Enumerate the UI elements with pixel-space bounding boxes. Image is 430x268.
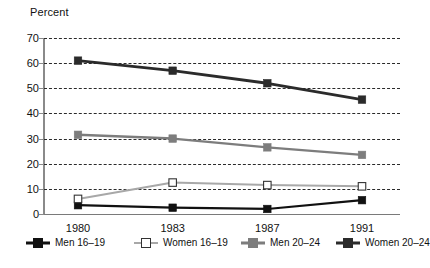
series-men-20-24	[74, 131, 366, 159]
series-line	[78, 135, 362, 155]
plot-area: 010203040506070 1980198319871991	[44, 38, 400, 214]
x-tick-label-1983: 1983	[160, 223, 184, 234]
series-layer	[44, 38, 400, 214]
y-tick-label-60: 60	[27, 58, 39, 69]
y-tick-label-20: 20	[27, 158, 39, 169]
data-point-marker	[74, 195, 82, 203]
y-tick-label-0: 0	[33, 209, 39, 220]
legend-swatch-icon	[241, 237, 265, 249]
y-tick-label-70: 70	[27, 33, 39, 44]
legend-item-men-20-24[interactable]: Men 20–24	[241, 236, 320, 250]
data-point-marker	[169, 204, 177, 212]
chart-legend: Men 16–19Women 16–19Men 20–24Women 20–24	[26, 236, 404, 250]
data-point-marker	[169, 67, 177, 75]
y-tick-label-40: 40	[27, 108, 39, 119]
series-men-16-19	[74, 196, 366, 212]
legend-item-women-16-19[interactable]: Women 16–19	[134, 236, 228, 250]
data-point-marker	[358, 151, 366, 159]
legend-item-men-16-19[interactable]: Men 16–19	[26, 236, 105, 250]
legend-item-label: Women 20–24	[365, 238, 430, 248]
legend-item-women-20-24[interactable]: Women 20–24	[336, 236, 430, 250]
data-point-marker	[169, 135, 177, 143]
data-point-marker	[169, 179, 177, 187]
x-tick-label-1991: 1991	[350, 223, 374, 234]
x-tick-label-1980: 1980	[66, 223, 90, 234]
series-line	[78, 183, 362, 199]
series-women-16-19	[74, 179, 366, 203]
legend-swatch-icon	[134, 237, 158, 249]
data-point-marker	[358, 96, 366, 104]
caption-strip	[0, 258, 410, 268]
legend-swatch-icon	[336, 237, 360, 249]
y-tick-mark-0	[39, 214, 44, 215]
y-axis-title: Percent	[30, 6, 69, 18]
data-point-marker	[74, 57, 82, 65]
series-line	[78, 200, 362, 209]
legend-item-label: Women 16–19	[163, 238, 228, 248]
data-point-marker	[264, 181, 272, 189]
series-women-20-24	[74, 57, 366, 103]
y-tick-label-50: 50	[27, 83, 39, 94]
y-tick-label-10: 10	[27, 183, 39, 194]
legend-item-label: Men 16–19	[55, 238, 105, 248]
data-point-marker	[264, 80, 272, 88]
data-point-marker	[358, 183, 366, 191]
data-point-marker	[264, 205, 272, 213]
x-tick-label-1987: 1987	[255, 223, 279, 234]
y-tick-label-30: 30	[27, 133, 39, 144]
data-point-marker	[358, 196, 366, 204]
legend-swatch-icon	[26, 237, 50, 249]
data-point-marker	[74, 131, 82, 139]
gridline-0	[44, 214, 400, 215]
series-line	[78, 61, 362, 100]
data-point-marker	[264, 144, 272, 152]
legend-item-label: Men 20–24	[270, 238, 320, 248]
